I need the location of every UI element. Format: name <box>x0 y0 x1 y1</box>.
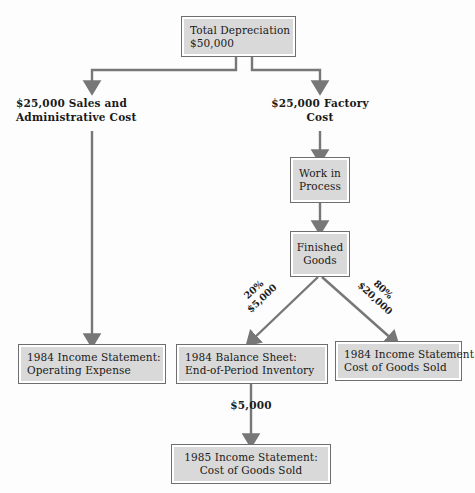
label-factory-cost-line-1: $25,000 Factory <box>262 97 378 111</box>
label-factory-cost-line-2: Cost <box>262 111 378 125</box>
finished-goods-line-2: Goods <box>303 254 337 267</box>
label-factory-cost: $25,000 Factory Cost <box>262 97 378 124</box>
total-depreciation-line-2: $50,000 <box>190 37 287 50</box>
operating-expense-line-1: 1984 Income Statement: <box>27 351 157 364</box>
operating-expense-line-2: Operating Expense <box>27 364 157 377</box>
finished-goods-line-1: Finished <box>297 241 344 254</box>
connector-layer <box>0 0 475 493</box>
node-total-depreciation: Total Depreciation $50,000 <box>181 16 296 57</box>
wip-line-1: Work in <box>299 167 341 180</box>
label-sales-admin-line-2: Administrative Cost <box>16 111 168 125</box>
depreciation-flow-diagram: Total Depreciation $50,000 $25,000 Sales… <box>0 0 475 493</box>
balance-sheet-line-1: 1984 Balance Sheet: <box>185 351 319 364</box>
label-sales-admin-line-1: $25,000 Sales and <box>16 97 168 111</box>
node-finished-goods: Finished Goods <box>290 231 350 277</box>
cogs-1985-line-2: Cost of Goods Sold <box>200 464 303 477</box>
cogs-1984-line-2: Cost of Goods Sold <box>344 361 453 374</box>
node-cogs-1985: 1985 Income Statement: Cost of Goods Sol… <box>171 444 331 484</box>
balance-sheet-line-2: End-of-Period Inventory <box>185 364 319 377</box>
wip-line-2: Process <box>299 180 341 193</box>
total-depreciation-line-1: Total Depreciation <box>190 24 287 37</box>
node-cogs-1984: 1984 Income Statement: Cost of Goods Sol… <box>335 341 462 381</box>
wire-total-to-sales <box>92 57 236 88</box>
label-carryover-amount: $5,000 <box>216 399 286 413</box>
node-work-in-process: Work in Process <box>290 157 350 203</box>
node-operating-expense: 1984 Income Statement: Operating Expense <box>18 344 166 384</box>
node-balance-sheet: 1984 Balance Sheet: End-of-Period Invent… <box>176 344 328 384</box>
wire-total-to-factory <box>252 57 320 88</box>
cogs-1984-line-1: 1984 Income Statement: <box>344 348 453 361</box>
cogs-1985-line-1: 1985 Income Statement: <box>184 451 318 464</box>
label-sales-admin-cost: $25,000 Sales and Administrative Cost <box>16 97 168 124</box>
